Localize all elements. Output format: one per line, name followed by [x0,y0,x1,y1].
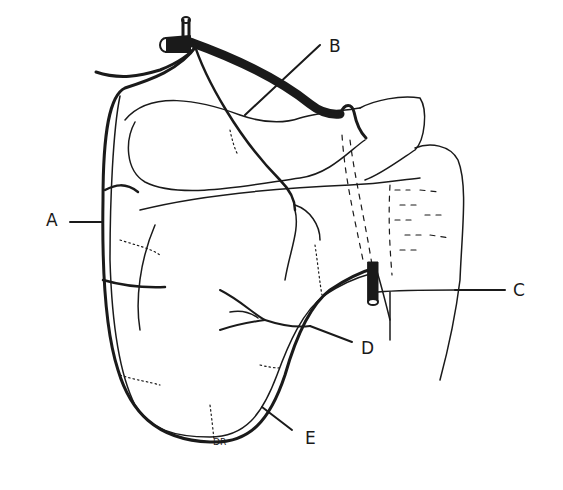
vessel-c [368,262,378,302]
leader-e [262,407,292,430]
label-b: B [329,36,341,56]
label-d: D [361,338,374,358]
thick-vessel-arch [190,42,340,114]
label-e: E [305,428,316,448]
label-a: A [46,210,58,230]
outer-contour [103,45,375,442]
right-lobe [360,97,425,180]
leader-d [310,326,352,342]
label-c: C [513,280,525,300]
anatomical-diagram [0,0,563,490]
artist-signature: DR [213,437,226,447]
